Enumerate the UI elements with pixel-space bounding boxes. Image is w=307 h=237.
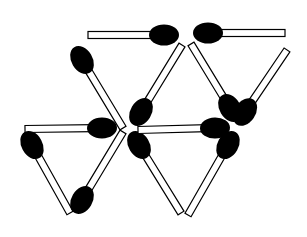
- matchstick-top-right-horizontal[interactable]: [193, 23, 285, 44]
- matchstick-top-left-horizontal[interactable]: [88, 25, 179, 46]
- matchstick-right-lower-diagonal[interactable]: [179, 127, 245, 220]
- matchstick-center-diagonal-down[interactable]: [122, 127, 190, 219]
- stick-body: [25, 125, 94, 133]
- stick-body: [188, 42, 229, 103]
- matchstick-right-diagonal-up[interactable]: [228, 44, 296, 130]
- match-head-icon: [87, 117, 117, 138]
- matchsticks-group: [16, 23, 296, 221]
- stick-body: [185, 150, 227, 217]
- matchstick-left-triangle-right-side[interactable]: [65, 127, 132, 219]
- stick-body: [83, 130, 126, 195]
- stick-body: [88, 32, 156, 39]
- stick-body: [247, 48, 290, 107]
- match-head-icon: [149, 25, 179, 46]
- matchstick-left-triangle-left-side[interactable]: [16, 127, 80, 218]
- stick-body: [33, 150, 73, 214]
- matchstick-center-diagonal-up[interactable]: [124, 40, 191, 131]
- stick-body: [140, 150, 184, 215]
- stick-body: [142, 43, 185, 107]
- matchstick-puzzle: Matchstick puzzle: [0, 0, 307, 237]
- match-head-icon: [193, 23, 223, 44]
- stick-body: [138, 125, 207, 134]
- matchstick-center-horizontal[interactable]: [138, 117, 231, 140]
- stick-body: [216, 30, 285, 37]
- matchstick-middle-left-horizontal[interactable]: [25, 117, 117, 139]
